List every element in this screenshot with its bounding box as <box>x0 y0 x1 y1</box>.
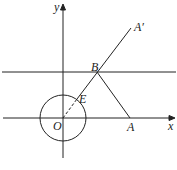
segment-OE-dashed <box>63 99 77 118</box>
label-x: x <box>167 119 174 133</box>
y-axis-arrow-icon <box>61 4 66 10</box>
segment-BA <box>97 72 130 118</box>
geometry-diagram: y x O E B A A′ <box>0 0 177 170</box>
diagram-canvas: y x O E B A A′ <box>0 0 177 170</box>
label-A: A <box>126 120 135 134</box>
segment-EA-prime <box>77 28 131 99</box>
label-E: E <box>78 92 87 106</box>
label-O: O <box>53 119 62 133</box>
label-A-prime: A′ <box>133 20 144 34</box>
label-B: B <box>91 60 99 74</box>
label-y: y <box>53 0 60 14</box>
